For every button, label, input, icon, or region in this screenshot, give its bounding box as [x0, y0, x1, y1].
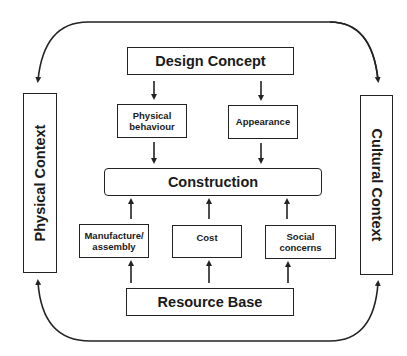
social-concerns-label-line2: concerns — [279, 242, 321, 254]
manufacture-label-line2: assembly — [84, 241, 143, 253]
physical-behaviour-label-line2: behaviour — [129, 121, 174, 133]
diagram-canvas: Design Concept Physical behaviour Appear… — [0, 0, 407, 356]
appearance-label: Appearance — [236, 116, 290, 128]
construction-label: Construction — [168, 174, 258, 190]
design-concept-label: Design Concept — [155, 53, 265, 69]
social-concerns-box: Social concerns — [265, 225, 336, 259]
construction-box: Construction — [104, 168, 322, 196]
physical-behaviour-label-line1: Physical — [129, 110, 174, 122]
cost-box: Cost — [172, 225, 242, 258]
cultural-context-label: Cultural Context — [369, 129, 385, 242]
social-concerns-label-line1: Social — [279, 231, 321, 243]
cost-label: Cost — [196, 232, 217, 244]
manufacture-label-line1: Manufacture/ — [84, 230, 143, 242]
physical-behaviour-box: Physical behaviour — [117, 104, 187, 138]
top-loop-right-arrow — [330, 22, 378, 80]
resource-base-box: Resource Base — [126, 288, 294, 316]
manufacture-assembly-box: Manufacture/ assembly — [79, 224, 149, 258]
physical-context-box: Physical Context — [23, 93, 57, 273]
cultural-context-box: Cultural Context — [360, 95, 393, 275]
appearance-box: Appearance — [228, 105, 298, 139]
physical-context-label: Physical Context — [32, 125, 48, 242]
resource-base-label: Resource Base — [158, 294, 263, 310]
design-concept-box: Design Concept — [127, 47, 294, 75]
